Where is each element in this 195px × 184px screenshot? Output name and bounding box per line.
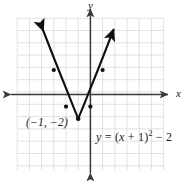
equation-equals: =: [102, 130, 115, 144]
point-marker: [88, 105, 92, 109]
equation-minus-two: − 2: [153, 130, 173, 144]
axis-label-y: y: [88, 0, 93, 11]
vertex-coordinate-label: (−1, −2): [26, 117, 68, 129]
point-marker: [52, 68, 56, 72]
equation-label: y = (x + 1)2 − 2: [96, 131, 172, 143]
graph-figure: y x (−1, −2) y = (x + 1)2 − 2: [0, 0, 195, 184]
point-marker: [64, 105, 68, 109]
axis-label-x: x: [176, 88, 181, 99]
point-marker: [101, 68, 105, 72]
point-marker: [76, 117, 81, 122]
coordinate-plane: [0, 0, 195, 184]
equation-plus-one: + 1: [125, 130, 145, 144]
